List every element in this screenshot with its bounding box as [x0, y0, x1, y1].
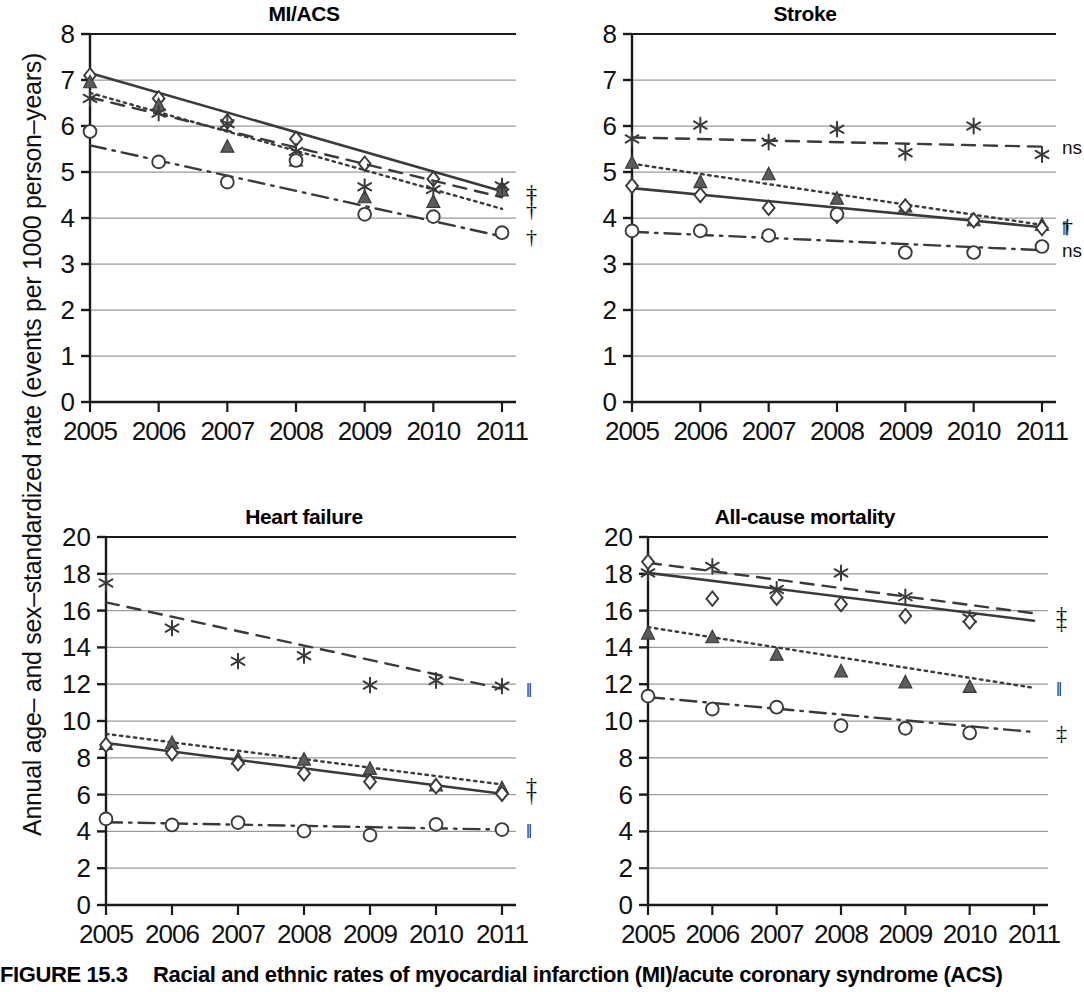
- y-tick-label: 6: [61, 111, 75, 141]
- series-asterisk_dashed: [626, 118, 1049, 162]
- y-tick-label: 8: [77, 743, 91, 773]
- y-tick-label: 6: [77, 780, 91, 810]
- data-point-diamond: [706, 591, 718, 605]
- significance-markers: †‡‖‡: [1056, 601, 1067, 745]
- significance-marker: †: [526, 224, 537, 249]
- significance-markers: ns†‖ns: [1062, 137, 1082, 262]
- y-tick-label: 16: [604, 596, 633, 626]
- data-point-asterisk: [232, 654, 245, 669]
- series-triangle_dotted: [100, 734, 509, 794]
- series-triangle_dotted: [642, 627, 1034, 693]
- significance-marker: ns: [1062, 137, 1082, 158]
- data-point-diamond: [1036, 221, 1048, 235]
- series-asterisk_dashed: [100, 576, 509, 694]
- y-tick-label: 3: [61, 249, 75, 279]
- y-tick-labels: 02468101214161820: [604, 522, 633, 920]
- y-tick-label: 0: [61, 387, 75, 417]
- panel-heart-failure: Heart failure 02468101214161820200520062…: [48, 505, 560, 963]
- data-point-circle: [232, 816, 245, 829]
- series-diamond_solid: [626, 179, 1048, 236]
- significance-marker: ‖: [526, 818, 532, 843]
- y-tick-labels: 02468101214161820: [62, 522, 91, 920]
- data-point-triangle: [762, 167, 775, 179]
- data-point-circle: [358, 208, 371, 221]
- significance-marker: ‖: [526, 677, 532, 702]
- data-point-triangle: [626, 156, 639, 168]
- panel-stroke: Stroke 012345678200520062007200820092010…: [590, 2, 1084, 460]
- y-tick-labels: 012345678: [603, 19, 617, 417]
- y-tick-label: 14: [62, 632, 91, 662]
- data-point-triangle: [642, 627, 655, 639]
- x-tick-label: 2006: [673, 416, 727, 446]
- y-tick-label: 3: [603, 249, 617, 279]
- data-point-circle: [364, 829, 377, 842]
- significance-marker: ‡: [1056, 609, 1067, 634]
- y-axis-label: Annual age– and sex–standardized rate (e…: [18, 0, 47, 895]
- data-point-triangle: [221, 140, 234, 152]
- data-point-diamond: [694, 188, 706, 202]
- y-tick-label: 6: [603, 111, 617, 141]
- data-point-circle: [770, 701, 783, 714]
- data-point-circle: [84, 125, 97, 138]
- x-tick-label: 2005: [63, 416, 117, 446]
- data-point-circle: [496, 823, 509, 836]
- y-tick-label: 10: [604, 706, 633, 736]
- x-tick-label: 2010: [406, 416, 460, 446]
- y-tick-label: 18: [604, 559, 633, 589]
- data-point-circle: [831, 208, 844, 221]
- x-tick-label: 2009: [338, 416, 392, 446]
- data-point-circle: [427, 210, 440, 223]
- chart-all-cause-mortality: 0246810121416182020052006200720082009201…: [590, 505, 1084, 963]
- y-tick-label: 18: [62, 559, 91, 589]
- significance-marker: ‖: [1056, 676, 1062, 701]
- x-tick-label: 2009: [343, 919, 397, 949]
- significance-markers: ††††: [526, 179, 537, 249]
- trend-line: [632, 232, 1042, 250]
- y-tick-label: 4: [603, 203, 617, 233]
- figure-number: FIGURE 15.3: [0, 962, 128, 987]
- series-circle_dashdot: [642, 690, 1034, 740]
- data-point-asterisk: [100, 576, 113, 591]
- y-tick-label: 0: [603, 387, 617, 417]
- x-tick-label: 2007: [200, 416, 254, 446]
- data-point-circle: [1036, 240, 1049, 253]
- x-tick-label: 2011: [1008, 919, 1060, 949]
- series-asterisk_dashed: [642, 559, 1034, 625]
- axes: [81, 34, 516, 412]
- data-point-circle: [642, 690, 655, 703]
- chart-mi-acs: 0123456782005200620072008200920102011†††…: [48, 2, 560, 460]
- series-circle_dashdot: [100, 812, 509, 841]
- x-tick-label: 2007: [742, 416, 796, 446]
- data-point-asterisk: [762, 135, 775, 150]
- x-tick-labels: 2005200620072008200920102011: [621, 919, 1060, 949]
- gridlines: [648, 537, 1048, 868]
- data-point-asterisk: [496, 679, 509, 694]
- data-point-circle: [899, 246, 912, 259]
- data-point-asterisk: [166, 621, 179, 636]
- y-tick-label: 14: [604, 632, 633, 662]
- y-tick-label: 8: [619, 743, 633, 773]
- data-point-triangle: [835, 664, 848, 676]
- data-point-asterisk: [626, 131, 639, 146]
- significance-marker: ‡: [1056, 720, 1067, 745]
- data-point-diamond: [642, 555, 654, 569]
- y-tick-label: 1: [603, 341, 617, 371]
- data-point-asterisk: [835, 565, 848, 580]
- series-diamond_solid: [100, 738, 508, 801]
- data-point-circle: [899, 722, 912, 735]
- y-tick-label: 4: [77, 816, 91, 846]
- y-tick-label: 7: [61, 65, 75, 95]
- y-tick-label: 4: [61, 203, 75, 233]
- figure-caption: FIGURE 15.3 Racial and ethnic rates of m…: [0, 962, 1084, 988]
- axes: [97, 537, 516, 915]
- y-tick-label: 1: [61, 341, 75, 371]
- trend-line: [106, 602, 502, 688]
- y-tick-label: 2: [61, 295, 75, 325]
- x-tick-label: 2005: [621, 919, 675, 949]
- data-point-triangle: [899, 675, 912, 687]
- y-tick-label: 5: [603, 157, 617, 187]
- x-tick-label: 2006: [145, 919, 199, 949]
- trend-line: [632, 138, 1042, 147]
- data-point-circle: [706, 703, 719, 716]
- significance-marker: ns: [1062, 240, 1082, 261]
